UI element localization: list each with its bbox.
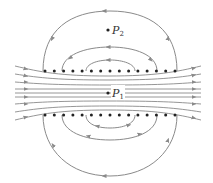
wire-dot xyxy=(109,70,112,73)
wire-dot xyxy=(174,114,177,117)
wire-dot xyxy=(164,70,167,73)
wire-dot xyxy=(90,70,93,73)
top-inner-loop xyxy=(86,60,135,71)
wire-dot xyxy=(146,70,149,73)
wire-dot xyxy=(71,114,74,117)
top-middle-loop xyxy=(62,47,157,71)
top-wire-row xyxy=(44,70,177,73)
wire-dot xyxy=(146,114,149,117)
bottom-loop-arrows xyxy=(53,125,168,176)
wire-dot xyxy=(62,114,65,117)
wire-dot xyxy=(99,114,102,117)
svg-text:P2: P2 xyxy=(111,24,124,38)
wire-dot xyxy=(164,114,167,117)
wire-dot xyxy=(53,114,56,117)
wire-dot xyxy=(155,114,158,117)
wire-dot xyxy=(136,114,139,117)
wire-dot xyxy=(118,114,121,117)
wire-dot xyxy=(99,70,102,73)
point-P1: P1 xyxy=(106,85,125,101)
top-outer-loop xyxy=(43,11,177,71)
wire-dot xyxy=(127,114,130,117)
wire-dot xyxy=(44,114,47,117)
bottom-inner-loop xyxy=(86,115,135,128)
wire-dot xyxy=(71,70,74,73)
field-line-diagram: P2 P1 xyxy=(0,0,213,183)
wire-dot xyxy=(81,70,84,73)
wire-dot xyxy=(118,70,121,73)
bottom-loops xyxy=(43,115,177,176)
wire-dot xyxy=(174,70,177,73)
wire-dot xyxy=(53,70,56,73)
top-loops xyxy=(43,11,177,71)
wire-dot xyxy=(155,70,158,73)
point-P2-subscript: 2 xyxy=(119,30,123,38)
bottom-outer-loop xyxy=(43,115,177,176)
wire-dot xyxy=(127,70,130,73)
wire-dot xyxy=(62,70,65,73)
wire-dot xyxy=(44,70,47,73)
wire-dot xyxy=(109,114,112,117)
point-P1-dot xyxy=(106,91,109,94)
top-loop-arrows xyxy=(52,11,168,60)
wire-dot xyxy=(81,114,84,117)
point-P2-dot xyxy=(106,28,109,31)
wire-dot xyxy=(90,114,93,117)
wire-dot xyxy=(136,70,139,73)
point-P1-subscript: 1 xyxy=(119,93,123,101)
bottom-wire-row xyxy=(44,114,177,117)
point-P2: P2 xyxy=(106,24,123,38)
